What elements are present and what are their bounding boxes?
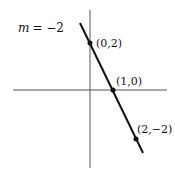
point-2-neg2: [134, 137, 139, 142]
point-label-1-0: (1,0): [116, 75, 142, 88]
coordinate-diagram: m= −2 (0,2) (1,0) (2,−2): [0, 0, 175, 171]
point-label-2-neg2: (2,−2): [137, 123, 172, 136]
slope-label: m= −2: [18, 21, 64, 35]
point-1-0: [111, 88, 116, 93]
point-label-0-2: (0,2): [96, 37, 122, 50]
point-0-2: [88, 41, 93, 46]
